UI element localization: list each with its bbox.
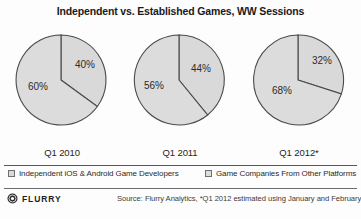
pie-caption-q1-2010: Q1 2010 xyxy=(3,147,121,158)
legend-item-independent: Independent iOS & Android Game Developer… xyxy=(8,169,179,178)
pie-slice-label-right: 32% xyxy=(312,55,332,66)
source-note: Source: Flurry Analytics, *Q1 2012 estim… xyxy=(117,194,361,203)
pie-svg-q1-2011: 44% 56% xyxy=(131,32,229,128)
legend-label-other-platforms: Game Companies From Other Platforms xyxy=(216,169,356,178)
pie-slices-q1-2010 xyxy=(16,35,106,125)
chart-legend: Independent iOS & Android Game Developer… xyxy=(6,169,357,185)
pie-slices-q1-2012 xyxy=(254,35,344,125)
pie-slice-label-right: 44% xyxy=(191,63,211,74)
footer-top-divider xyxy=(4,188,357,189)
pie-chart-q1-2011: 44% 56% Q1 2011 xyxy=(121,32,239,158)
pie-chart-figure: Independent vs. Established Games, WW Se… xyxy=(0,0,361,219)
pie-caption-q1-2011: Q1 2011 xyxy=(121,147,239,158)
legend-swatch-icon xyxy=(8,170,15,177)
pie-svg-q1-2012: 32% 68% xyxy=(250,32,348,128)
pie-slice-label-left: 60% xyxy=(28,81,48,92)
pie-chart-q1-2012: 32% 68% Q1 2012* xyxy=(240,32,358,158)
legend-label-independent: Independent iOS & Android Game Developer… xyxy=(19,169,179,178)
pie-slice-label-left: 68% xyxy=(272,85,292,96)
flurry-logo: FLURRY xyxy=(7,193,62,204)
legend-item-other-platforms: Game Companies From Other Platforms xyxy=(205,169,356,178)
legend-swatch-icon xyxy=(205,170,212,177)
pie-caption-q1-2012: Q1 2012* xyxy=(240,147,358,158)
chart-title: Independent vs. Established Games, WW Se… xyxy=(0,5,361,17)
chart-footer: FLURRY Source: Flurry Analytics, *Q1 201… xyxy=(0,192,361,212)
legend-top-divider xyxy=(4,165,357,166)
pie-chart-group: 40% 60% Q1 2010 44% 56% Q1 2011 xyxy=(0,32,361,158)
pie-svg-q1-2010: 40% 60% xyxy=(13,32,111,128)
flurry-wordmark: FLURRY xyxy=(22,194,62,204)
pie-slice-label-right: 40% xyxy=(75,59,95,70)
pie-slice-label-left: 56% xyxy=(144,80,164,91)
flurry-spiral-icon xyxy=(7,193,18,204)
pie-chart-q1-2010: 40% 60% Q1 2010 xyxy=(3,32,121,158)
